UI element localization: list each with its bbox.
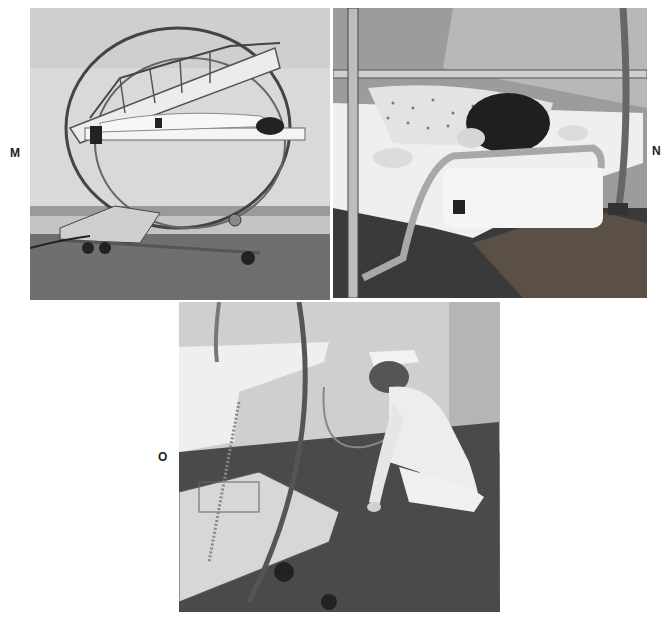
photo-o-nurse-adjusting-base — [179, 302, 500, 612]
panel-label-m: M — [10, 146, 20, 160]
photo-m-circular-bed — [30, 8, 330, 300]
photo-n-patient-prone — [333, 8, 647, 298]
nurse-adjusting-illustration — [179, 302, 500, 612]
patient-prone-illustration — [333, 8, 647, 298]
panel-label-n: N — [652, 144, 661, 158]
circular-bed-illustration — [30, 8, 330, 300]
panel-label-o: O — [158, 450, 167, 464]
